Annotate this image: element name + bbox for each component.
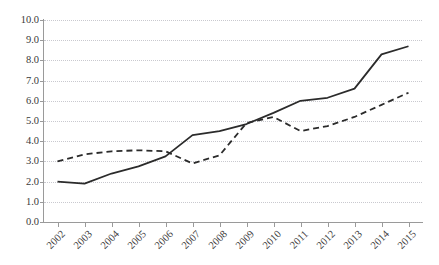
gridline <box>44 20 422 21</box>
x-axis-tick-label: 2003 <box>64 229 94 259</box>
y-axis-tick-label: 4.0 <box>26 136 39 147</box>
gridline <box>44 161 422 162</box>
x-axis-tick-mark <box>58 222 59 227</box>
y-axis-tick-label: 6.0 <box>26 96 39 107</box>
gridline <box>44 121 422 122</box>
x-axis-tick-mark <box>193 222 194 227</box>
x-axis-tick-label: 2002 <box>37 229 67 259</box>
x-axis-tick-label: 2006 <box>145 229 175 259</box>
y-axis-tick-label: 10.0 <box>21 15 39 26</box>
x-axis-tick-mark <box>85 222 86 227</box>
x-axis-tick-label: 2009 <box>226 229 256 259</box>
x-axis-tick-label: 2013 <box>334 229 364 259</box>
y-axis-tick-label: 3.0 <box>26 156 39 167</box>
x-axis-tick-label: 2015 <box>388 229 418 259</box>
x-axis-tick-mark <box>355 222 356 227</box>
x-axis-tick-mark <box>382 222 383 227</box>
y-axis-tick-mark <box>40 121 44 122</box>
x-axis-tick-mark <box>112 222 113 227</box>
gridline <box>44 202 422 203</box>
x-axis-tick-label: 2004 <box>91 229 121 259</box>
gridline <box>44 81 422 82</box>
x-axis-tick-mark <box>409 222 410 227</box>
x-axis-tick-mark <box>247 222 248 227</box>
gridline <box>44 40 422 41</box>
x-axis-tick-mark <box>220 222 221 227</box>
y-axis-tick-label: 5.0 <box>26 116 39 127</box>
line-chart: 0.01.02.03.04.05.06.07.08.09.010.0 20022… <box>0 0 439 265</box>
x-axis-tick-label: 2005 <box>118 229 148 259</box>
y-axis-tick-mark <box>40 101 44 102</box>
y-axis-tick-mark <box>40 81 44 82</box>
y-axis-tick-mark <box>40 222 44 223</box>
y-axis-tick-mark <box>40 40 44 41</box>
x-axis-tick-mark <box>274 222 275 227</box>
y-axis-tick-mark <box>40 161 44 162</box>
y-axis-tick-label: 8.0 <box>26 55 39 66</box>
y-axis-tick-label: 9.0 <box>26 35 39 46</box>
y-axis-tick-mark <box>40 182 44 183</box>
x-axis-tick-mark <box>301 222 302 227</box>
y-axis-tick-label: 1.0 <box>26 197 39 208</box>
x-axis-tick-mark <box>166 222 167 227</box>
y-axis-tick-mark <box>40 20 44 21</box>
gridline <box>44 141 422 142</box>
x-axis-line <box>43 222 423 223</box>
y-axis-tick-label: 2.0 <box>26 176 39 187</box>
y-axis-tick-mark <box>40 141 44 142</box>
gridline <box>44 60 422 61</box>
x-axis-tick-label: 2014 <box>361 229 391 259</box>
x-axis-tick-label: 2011 <box>280 229 310 259</box>
x-axis-tick-label: 2012 <box>307 229 337 259</box>
x-axis-tick-mark <box>328 222 329 227</box>
x-axis-tick-label: 2010 <box>253 229 283 259</box>
x-axis-tick-label: 2008 <box>199 229 229 259</box>
gridline <box>44 101 422 102</box>
x-axis-tick-label: 2007 <box>172 229 202 259</box>
plot-area <box>44 20 422 222</box>
y-axis-tick-mark <box>40 60 44 61</box>
x-axis-tick-mark <box>139 222 140 227</box>
y-axis-tick-label: 0.0 <box>26 217 39 228</box>
gridline <box>44 182 422 183</box>
y-axis-tick-label: 7.0 <box>26 75 39 86</box>
y-axis-tick-mark <box>40 202 44 203</box>
